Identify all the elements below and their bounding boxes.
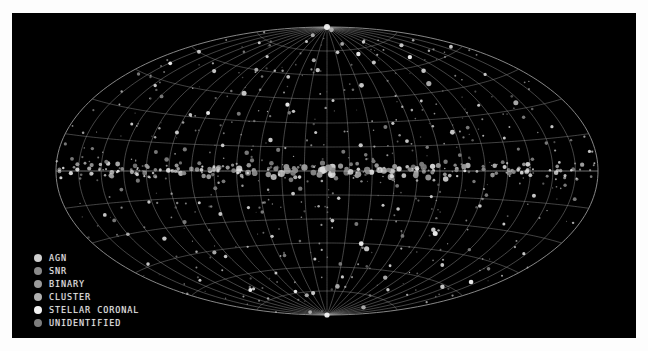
source-point[interactable] (222, 179, 226, 183)
source-point[interactable] (364, 153, 368, 157)
source-point[interactable] (175, 164, 179, 168)
source-point[interactable] (426, 146, 429, 149)
source-point[interactable] (440, 285, 444, 289)
legend-item[interactable]: UNIDENTIFIED (34, 317, 139, 329)
source-point[interactable] (276, 148, 280, 152)
source-point[interactable] (337, 197, 340, 200)
source-point[interactable] (517, 148, 520, 151)
source-point[interactable] (349, 162, 353, 166)
source-point[interactable] (391, 178, 395, 182)
source-point[interactable] (430, 195, 433, 198)
source-point[interactable] (207, 167, 212, 172)
source-point[interactable] (532, 194, 536, 198)
source-point[interactable] (91, 147, 94, 150)
legend-item[interactable]: SNR (34, 265, 139, 277)
source-point[interactable] (250, 158, 254, 162)
source-point[interactable] (413, 173, 419, 179)
source-point[interactable] (175, 130, 179, 134)
source-point[interactable] (389, 264, 392, 267)
source-point[interactable] (247, 163, 252, 168)
source-point[interactable] (298, 186, 302, 190)
source-point[interactable] (450, 130, 455, 135)
source-point[interactable] (283, 164, 289, 170)
source-point[interactable] (324, 312, 329, 317)
source-point[interactable] (362, 40, 365, 43)
source-point[interactable] (372, 60, 376, 64)
source-point[interactable] (354, 222, 358, 226)
source-point[interactable] (201, 174, 205, 178)
source-point[interactable] (252, 287, 255, 290)
source-point[interactable] (522, 116, 525, 119)
source-point[interactable] (110, 174, 114, 178)
source-point[interactable] (355, 173, 360, 178)
source-point[interactable] (75, 162, 79, 166)
source-point[interactable] (335, 284, 340, 289)
source-point[interactable] (359, 241, 364, 246)
source-point[interactable] (283, 254, 287, 258)
source-point[interactable] (70, 157, 74, 161)
source-point[interactable] (466, 126, 470, 130)
source-point[interactable] (112, 219, 116, 223)
source-point[interactable] (477, 104, 480, 107)
source-point[interactable] (325, 164, 332, 171)
source-point[interactable] (231, 168, 236, 173)
source-point[interactable] (331, 219, 335, 223)
source-point[interactable] (269, 161, 274, 166)
source-point[interactable] (104, 160, 108, 164)
source-point[interactable] (268, 138, 272, 142)
source-point[interactable] (213, 186, 217, 190)
source-point[interactable] (136, 179, 140, 183)
source-point[interactable] (314, 131, 317, 134)
source-point[interactable] (405, 139, 409, 143)
source-point[interactable] (420, 100, 423, 103)
source-point[interactable] (164, 157, 169, 162)
source-point[interactable] (162, 236, 166, 240)
source-point[interactable] (144, 164, 148, 168)
source-point[interactable] (197, 50, 201, 54)
source-point[interactable] (308, 310, 312, 314)
source-point[interactable] (311, 170, 317, 176)
source-point[interactable] (285, 103, 289, 107)
source-point[interactable] (364, 246, 369, 251)
source-point[interactable] (359, 143, 363, 147)
source-point[interactable] (356, 52, 360, 56)
source-point[interactable] (301, 164, 307, 170)
source-point[interactable] (341, 150, 345, 154)
source-point[interactable] (291, 192, 295, 196)
source-point[interactable] (270, 235, 273, 238)
source-point[interactable] (198, 201, 201, 204)
legend-item[interactable]: BINARY (34, 278, 139, 290)
source-point[interactable] (573, 197, 577, 201)
source-point[interactable] (395, 184, 399, 188)
source-point[interactable] (512, 170, 516, 174)
source-point[interactable] (273, 166, 278, 171)
source-point[interactable] (531, 157, 535, 161)
source-point[interactable] (522, 252, 525, 255)
source-point[interactable] (408, 55, 412, 59)
source-point[interactable] (555, 165, 559, 169)
source-point[interactable] (120, 167, 124, 171)
source-point[interactable] (324, 24, 330, 30)
source-point[interactable] (383, 275, 387, 279)
legend-item[interactable]: STELLAR CORONAL (34, 304, 139, 316)
source-point[interactable] (482, 167, 486, 171)
source-point[interactable] (320, 160, 325, 165)
source-point[interactable] (130, 122, 133, 125)
source-point[interactable] (252, 170, 258, 176)
source-point[interactable] (146, 262, 150, 266)
source-point[interactable] (490, 173, 495, 178)
source-point[interactable] (588, 150, 591, 153)
source-point[interactable] (386, 288, 389, 291)
source-point[interactable] (248, 288, 252, 292)
source-point[interactable] (336, 51, 340, 55)
source-point[interactable] (436, 163, 441, 168)
source-point[interactable] (401, 234, 405, 238)
source-point[interactable] (244, 150, 249, 155)
source-point[interactable] (382, 204, 385, 207)
source-point[interactable] (399, 43, 403, 47)
source-point[interactable] (224, 255, 228, 259)
source-point[interactable] (212, 250, 216, 254)
source-point[interactable] (247, 206, 250, 209)
source-point[interactable] (338, 262, 342, 266)
source-point[interactable] (292, 110, 295, 113)
